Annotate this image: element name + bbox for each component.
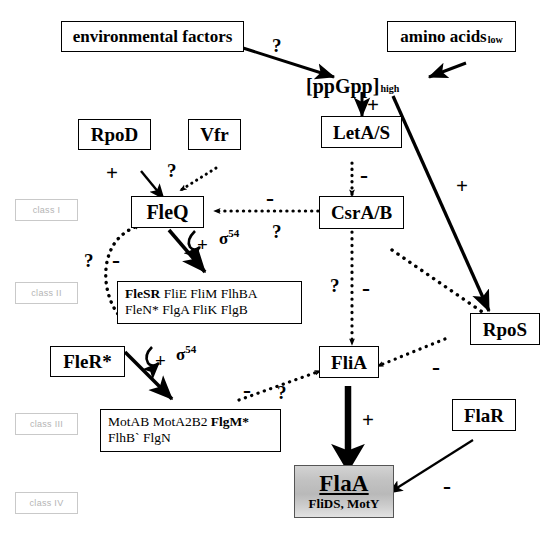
- node-amino-acids-label: amino acids: [400, 28, 486, 45]
- edge-label-flia-to-flaa: +: [362, 410, 374, 431]
- node-flia[interactable]: FliA: [319, 346, 379, 378]
- node-ppgpp-subscript: high: [379, 84, 399, 94]
- gene-mota2b2: MotA2B2: [153, 414, 208, 429]
- class-label-3: class III: [15, 413, 78, 435]
- edge-label-fleq-sigma: σ54: [219, 228, 239, 247]
- gene-box-class2-row2: FleN* FlgA FliK FlgB: [125, 302, 294, 318]
- node-environmental-factors[interactable]: environmental factors: [61, 21, 244, 52]
- node-rpos[interactable]: RpoS: [470, 313, 540, 345]
- gene-box-class3[interactable]: MotAB MotA2B2 FlgM* FlhB` FlgN: [100, 409, 281, 452]
- edge-label-csra-to-flia-q: ?: [330, 276, 340, 295]
- edge-label-fler-sigma: σ54: [176, 344, 196, 363]
- edge-label-csra-to-flia-minus: -: [362, 276, 370, 300]
- gene-flgn: FlgN: [143, 430, 171, 445]
- node-flar-label: FlaR: [464, 406, 504, 425]
- edge-label-rpod-to-fleq: +: [106, 163, 118, 184]
- edge-label-vfr-to-fleq: ?: [167, 161, 177, 180]
- edge-label-env-to-ppgpp: ?: [272, 36, 282, 55]
- node-vfr-label: Vfr: [200, 125, 228, 144]
- edge-label-csra-to-fleq-q: ?: [272, 222, 282, 241]
- diagram-edges: [0, 0, 553, 547]
- edge-label-class3-to-flia-q-text: ?: [277, 382, 287, 403]
- diagram-canvas: environmental factors amino acidslow [pp…: [0, 0, 553, 547]
- edge-vfr-to-fleq: [181, 168, 216, 190]
- gene-flie: FliE: [164, 286, 187, 301]
- edge-env-to-ppgpp: [243, 48, 334, 77]
- edge-label-ppgpp-to-leta-text: +: [367, 93, 379, 117]
- node-rpos-label: RpoS: [483, 320, 527, 339]
- edge-label-fler-sigma-plus-text: +: [155, 350, 166, 371]
- edge-label-fleq-sigma-text: σ: [219, 229, 228, 248]
- node-leta-s[interactable]: LetA/S: [321, 116, 402, 148]
- edge-label-env-to-ppgpp-text: ?: [272, 35, 282, 56]
- figure-caption: [0, 532, 553, 546]
- node-environmental-factors-label: environmental factors: [73, 28, 233, 45]
- gene-flen: FleN*: [125, 302, 159, 317]
- node-rpod[interactable]: RpoD: [78, 119, 151, 150]
- node-flia-label: FliA: [331, 353, 367, 372]
- gene-flhba: FlhBA: [221, 286, 258, 301]
- gene-flgb: FlgB: [221, 302, 248, 317]
- edge-label-fleq-sigma-sup: 54: [228, 227, 239, 239]
- edge-label-csra-to-fleq-minus-text: -: [266, 185, 274, 211]
- edge-label-fleq-sigma-plus-text: +: [197, 234, 208, 255]
- node-csra-b-label: CsrA/B: [331, 203, 392, 222]
- gene-box-class2-row1: FleSR FliE FliM FlhBA: [125, 286, 294, 302]
- class-label-1: class I: [15, 199, 78, 221]
- class-label-3-text: class III: [30, 419, 63, 429]
- gene-flhb: FlhB`: [108, 430, 140, 445]
- edge-label-class3-to-flia-minus-text: -: [243, 377, 251, 403]
- edge-label-class2-to-fleq-minus: -: [112, 248, 120, 272]
- node-ppgpp[interactable]: [ppGpp]high: [306, 74, 419, 98]
- node-leta-s-label: LetA/S: [333, 123, 390, 142]
- edge-label-rpod-to-fleq-text: +: [106, 161, 118, 185]
- edge-label-class3-to-flia-minus: -: [243, 378, 251, 402]
- edge-rpod-to-fleq: [141, 171, 164, 199]
- gene-flik: FliK: [193, 302, 218, 317]
- edge-flar-to-flaa: [389, 440, 473, 493]
- node-amino-acids[interactable]: amino acidslow: [387, 21, 516, 52]
- edge-label-csra-to-fleq-q-text: ?: [272, 221, 282, 242]
- edge-label-rpos-to-flia-text: -: [432, 354, 440, 380]
- gene-box-class3-row2: FlhB` FlgN: [108, 430, 273, 446]
- edge-label-ppgpp-to-leta: +: [367, 95, 379, 116]
- class-label-4-text: class IV: [30, 498, 64, 508]
- node-flar[interactable]: FlaR: [452, 399, 516, 431]
- edge-label-vfr-to-fleq-text: ?: [167, 160, 177, 181]
- edge-label-leta-to-csra-text: -: [360, 162, 368, 188]
- edge-label-csra-to-fleq-minus: -: [266, 186, 274, 210]
- class-label-2: class II: [15, 282, 78, 304]
- edge-label-class2-to-fleq-q-text: ?: [84, 250, 94, 271]
- node-fler[interactable]: FleR*: [50, 346, 125, 377]
- node-fler-label: FleR*: [63, 352, 112, 371]
- gene-flga: FlgA: [162, 302, 189, 317]
- edge-label-csra-to-flia-minus-text: -: [362, 275, 370, 301]
- gene-box-class3-row1: MotAB MotA2B2 FlgM*: [108, 414, 273, 430]
- edge-label-fleq-sigma-plus: +: [197, 235, 208, 254]
- class-label-4: class IV: [15, 492, 78, 514]
- edge-label-fler-sigma-text: σ: [176, 345, 185, 364]
- edge-label-fler-sigma-plus: +: [155, 351, 166, 370]
- edge-label-leta-to-csra: -: [360, 163, 368, 187]
- edge-label-ppgpp-to-rpos-text: +: [456, 174, 468, 198]
- node-vfr[interactable]: Vfr: [188, 119, 241, 150]
- edge-aminoacids-to-ppgpp: [429, 63, 466, 77]
- edge-label-csra-to-flia-q-text: ?: [330, 275, 340, 296]
- gene-motab: MotAB: [108, 414, 149, 429]
- edge-label-rpos-to-flia: -: [432, 355, 440, 379]
- node-fleq-label: FleQ: [146, 202, 188, 222]
- edge-label-flar-to-flaa: -: [443, 474, 451, 498]
- class-label-1-text: class I: [33, 205, 61, 215]
- node-flaa-sublabel: FliDS, MotY: [309, 497, 380, 511]
- node-flaa[interactable]: FlaA FliDS, MotY: [294, 465, 394, 518]
- gene-flesr: FleSR: [125, 286, 160, 301]
- node-rpod-label: RpoD: [91, 125, 139, 144]
- edge-label-class2-to-fleq-q: ?: [84, 251, 94, 270]
- edge-label-class2-to-fleq-minus-text: -: [112, 247, 120, 273]
- node-amino-acids-subscript: low: [487, 35, 503, 45]
- node-fleq[interactable]: FleQ: [131, 196, 204, 228]
- gene-flgm: FlgM*: [211, 414, 249, 429]
- gene-flim: FliM: [190, 286, 217, 301]
- node-csra-b[interactable]: CsrA/B: [319, 196, 404, 229]
- gene-box-class2[interactable]: FleSR FliE FliM FlhBA FleN* FlgA FliK Fl…: [117, 281, 302, 324]
